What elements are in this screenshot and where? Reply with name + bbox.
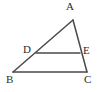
vertex-label-e: E	[83, 45, 90, 56]
vertex-label-a: A	[66, 1, 74, 12]
vertex-label-c: C	[84, 74, 91, 85]
vertex-label-d: D	[23, 44, 31, 55]
vertex-label-b: B	[6, 74, 13, 85]
segment-ab	[13, 20, 73, 72]
geometry-figure: A B C D E	[0, 0, 101, 92]
